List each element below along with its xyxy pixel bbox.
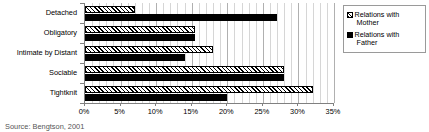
y-tickmark: [80, 103, 84, 104]
y-tickmark: [80, 83, 84, 84]
plot-area: [84, 3, 334, 103]
bar-father: [85, 94, 227, 101]
bar-mother: [85, 6, 135, 13]
x-tickmark: [191, 103, 192, 106]
y-axis-label-3: Sociable: [0, 69, 77, 77]
bar-group: [85, 43, 334, 63]
bar-group: [85, 63, 334, 83]
x-tick-label: 5%: [107, 107, 133, 116]
y-axis-label-2: Intimate by Distant: [0, 49, 77, 57]
y-axis-label-0: Detached: [0, 9, 77, 17]
x-tickmark: [84, 103, 85, 106]
bar-group: [85, 3, 334, 23]
x-tickmark: [155, 103, 156, 106]
y-axis-category-labels: Detached Obligatory Intimate by Distant …: [0, 3, 80, 103]
x-tick-label: 10%: [142, 107, 168, 116]
bar-group: [85, 23, 334, 43]
x-tickmark: [333, 103, 334, 106]
bar-father: [85, 74, 284, 81]
bar-father: [85, 14, 277, 21]
y-tickmark: [80, 23, 84, 24]
source-note: Source: Bengtson, 2001: [5, 122, 84, 131]
legend-label-mother-line2: Mother: [357, 19, 426, 27]
bar-mother: [85, 46, 213, 53]
x-tickmark: [262, 103, 263, 106]
gridline-major: [334, 3, 335, 103]
legend-swatch-father-icon: [347, 32, 353, 38]
x-tick-label: 35%: [320, 107, 346, 116]
legend-swatch-mother-icon: [347, 12, 353, 18]
bar-mother: [85, 66, 284, 73]
x-tickmark: [226, 103, 227, 106]
y-tickmark: [80, 43, 84, 44]
x-tickmark: [120, 103, 121, 106]
legend-item-father: Relations with Father: [347, 31, 425, 47]
legend-item-mother: Relations with Mother: [347, 11, 425, 27]
x-tick-label: 30%: [284, 107, 310, 116]
bar-father: [85, 54, 185, 61]
legend-label-father-line2: Father: [357, 39, 426, 47]
y-axis-label-1: Obligatory: [0, 29, 77, 37]
bar-father: [85, 34, 195, 41]
bar-mother: [85, 26, 195, 33]
x-tickmark: [297, 103, 298, 106]
bar-group: [85, 83, 334, 103]
x-tick-label: 25%: [249, 107, 275, 116]
chart-figure: Detached Obligatory Intimate by Distant …: [0, 0, 429, 132]
x-tick-label: 20%: [213, 107, 239, 116]
x-tick-label: 15%: [178, 107, 204, 116]
bar-mother: [85, 86, 313, 93]
y-tickmark: [80, 3, 84, 4]
x-tick-label: 0%: [71, 107, 97, 116]
chart-legend: Relations with Mother Relations with Fat…: [343, 5, 426, 53]
y-axis-label-4: Tightknit: [0, 89, 77, 97]
y-tickmark: [80, 63, 84, 64]
x-axis-tick-labels: 0%5%10%15%20%25%30%35%: [0, 107, 429, 119]
